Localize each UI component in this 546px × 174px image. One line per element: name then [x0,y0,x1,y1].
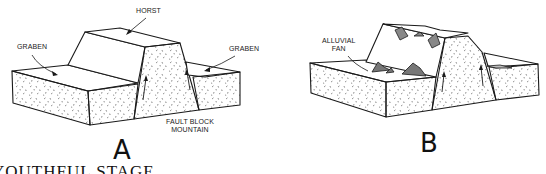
label-fault-block-line2: MOUNTAIN [166,126,214,134]
label-graben-right: GRABEN [229,45,259,53]
label-fault-block-line1: FAULT BLOCK [166,118,214,126]
label-fault-block-mountain: FAULT BLOCK MOUNTAIN [166,118,214,134]
label-horst: HORST [136,7,161,15]
right-graben-front-face [193,72,240,110]
left-graben-right-face [88,84,138,125]
label-alluvial-fan: ALLUVIAL FAN [322,37,356,53]
diagram-a [12,18,240,125]
panel-letter-a: A [113,137,131,163]
b-right-front-face [489,64,539,100]
figure-caption: YOUTHFUL STAGE [0,162,155,174]
b-left-right-face [386,77,436,117]
label-alluvial-line2: FAN [322,45,356,53]
horst-front-face [134,43,199,119]
label-alluvial-line1: ALLUVIAL [322,37,356,45]
block-diagrams [0,0,546,174]
label-graben-left: GRABEN [17,43,47,51]
panel-letter-b: B [420,130,438,156]
